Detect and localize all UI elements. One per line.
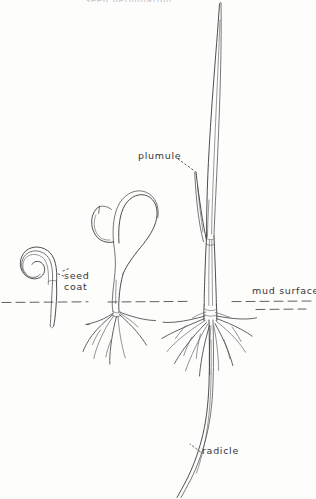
- botanical-figure: seed germination: [0, 0, 316, 499]
- stage-3-established-seedling: [162, 2, 257, 497]
- stage-2-roots: [83, 313, 156, 365]
- stage-1-coiled-seed: [20, 247, 56, 328]
- label-seed-coat-line1: seed: [64, 270, 89, 281]
- label-seed-coat: seed coat: [64, 270, 89, 292]
- leader-lines: [56, 159, 201, 452]
- label-seed-coat-line2: coat: [64, 281, 89, 292]
- label-plumule: plumule: [138, 150, 181, 161]
- stage-2-hooked-seedling: [83, 191, 158, 364]
- illustration-canvas: [0, 0, 316, 499]
- label-mud-surface: mud surface: [252, 285, 316, 296]
- mud-surface-line: [2, 301, 314, 310]
- label-radicle: radicle: [202, 445, 239, 456]
